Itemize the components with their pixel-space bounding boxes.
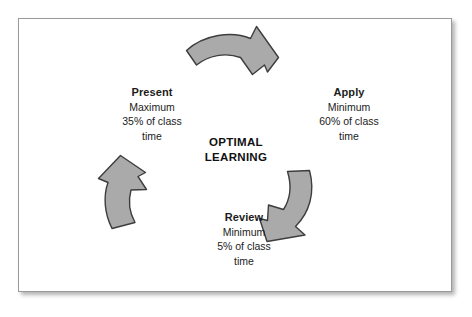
node-review-qualifier: Minimum <box>184 225 304 240</box>
center-label-line2: LEARNING <box>166 150 306 165</box>
node-review: Review Minimum 5% of class time <box>184 210 304 268</box>
node-apply-qualifier: Minimum <box>289 100 409 115</box>
node-present-title: Present <box>92 85 212 100</box>
node-review-amount: 5% of class <box>184 239 304 254</box>
node-present-qualifier: Maximum <box>92 100 212 115</box>
node-review-unit: time <box>184 254 304 269</box>
node-apply-amount: 60% of class <box>289 114 409 129</box>
node-apply: Apply Minimum 60% of class time <box>289 85 409 143</box>
node-apply-unit: time <box>289 129 409 144</box>
center-label-line1: OPTIMAL <box>166 135 306 150</box>
curved-arrow-review-to-present-icon <box>99 156 147 229</box>
diagram-frame: Present Maximum 35% of class time Apply … <box>18 18 452 292</box>
node-apply-title: Apply <box>289 85 409 100</box>
curved-arrow-present-to-apply-icon <box>187 27 279 75</box>
node-review-title: Review <box>184 210 304 225</box>
diagram-canvas: Present Maximum 35% of class time Apply … <box>0 0 472 317</box>
center-label: OPTIMAL LEARNING <box>166 135 306 165</box>
node-present-amount: 35% of class <box>92 114 212 129</box>
